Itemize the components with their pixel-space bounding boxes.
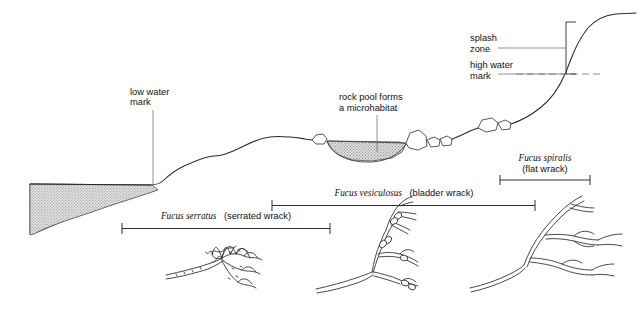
boulder-pool-right (406, 130, 427, 150)
sea-extended-body (30, 184, 158, 235)
boulder-upper-b (498, 120, 511, 130)
air-bladder (400, 279, 409, 287)
upper-shore-profile (452, 128, 478, 139)
fucus-serratus-scientific-name: Fucus serratus (160, 211, 217, 221)
fucus-vesiculosus-scientific-name: Fucus vesiculosus (334, 188, 403, 198)
low-water-mark-label-line2: mark (130, 97, 151, 107)
boulder-left (312, 134, 327, 144)
fucus-spiralis-common-name: (flat wrack) (522, 164, 567, 174)
fucus-serratus-common-name: (serrated wrack) (224, 211, 291, 221)
air-bladder (400, 254, 409, 261)
zone-fucus-spiralis: Fucus spiralis (flat wrack) (500, 153, 590, 185)
shore-profile (30, 137, 312, 185)
splash-zone-bracket (566, 22, 576, 74)
splash-zone-label-line2: zone (470, 44, 490, 54)
bladder-wrack-drawing (316, 196, 418, 293)
serrated-wrack-drawing (166, 246, 262, 288)
air-bladder (408, 283, 417, 291)
cliff-profile (511, 13, 636, 124)
fucus-spiralis-range-bar (500, 175, 590, 185)
boulder-cluster-b (440, 136, 452, 146)
fucus-vesiculosus-name-group: Fucus vesiculosus (bladder wrack) (334, 182, 474, 199)
fucus-spiralis-scientific-name: Fucus spiralis (518, 153, 572, 163)
rock-pool-water (327, 141, 406, 161)
fucus-serratus-name-group: Fucus serratus (serrated wrack) (160, 205, 291, 222)
fucus-vesiculosus-common-name: (bladder wrack) (409, 188, 473, 198)
fucus-vesiculosus-range-bar (272, 200, 535, 211)
shore-zonation-diagram: low water mark rock pool forms a microha… (0, 0, 644, 322)
low-water-mark-label: low water (130, 87, 169, 97)
rock-pool-label-line2: a microhabitat (339, 103, 398, 113)
zone-fucus-vesiculosus: Fucus vesiculosus (bladder wrack) (272, 182, 535, 211)
boulder-cluster-a (427, 137, 440, 147)
zone-fucus-serratus: Fucus serratus (serrated wrack) (122, 205, 330, 234)
high-water-mark-label-line2: mark (470, 71, 491, 81)
rock-pool-label: rock pool forms (339, 92, 403, 102)
high-water-mark-label: high water (470, 60, 513, 70)
flat-wrack-drawing (470, 196, 622, 292)
boulder-upper-a (478, 118, 498, 132)
splash-zone-label: splash (470, 33, 497, 43)
fucus-serratus-range-bar (122, 223, 330, 234)
